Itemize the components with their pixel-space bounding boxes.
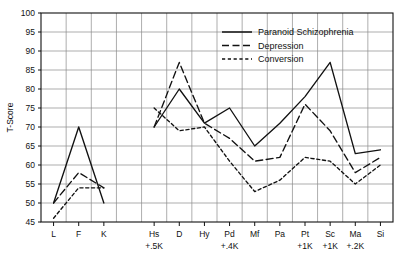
x-tick-label: Hs	[149, 229, 159, 239]
y-tick-label: 70	[26, 122, 36, 132]
legend: Paranoid SchizophreniaDepressionConversi…	[222, 27, 354, 64]
mmpi-profile-chart: 4550556065707580859095100T-ScoreLFKHs+.5…	[0, 0, 401, 266]
y-tick-label: 45	[26, 217, 36, 227]
y-tick-label: 80	[26, 84, 36, 94]
chart-canvas: 4550556065707580859095100T-ScoreLFKHs+.5…	[0, 0, 401, 266]
x-tick-label: Mf	[250, 229, 260, 239]
x-tick-sublabel: +.2K	[346, 241, 364, 251]
x-tick-label: Si	[377, 229, 385, 239]
y-tick-label: 85	[26, 65, 36, 75]
legend-label: Conversion	[258, 54, 304, 64]
x-tick-label: Ma	[349, 229, 361, 239]
x-tick-label: Pd	[224, 229, 235, 239]
x-tick-label: Pa	[275, 229, 286, 239]
series-line-validity	[54, 173, 104, 203]
y-tick-label: 55	[26, 179, 36, 189]
x-tick-sublabel: +1K	[322, 241, 338, 251]
x-tick-label: D	[176, 229, 182, 239]
grid-layer	[41, 13, 393, 222]
y-tick-label: 75	[26, 103, 36, 113]
y-tick-label: 100	[21, 8, 35, 18]
legend-label: Paranoid Schizophrenia	[258, 27, 354, 37]
y-axis-title: T-Score	[5, 102, 15, 132]
legend-label: Depression	[258, 41, 304, 51]
x-tick-label: L	[51, 229, 56, 239]
x-tick-sublabel: +.5K	[145, 241, 163, 251]
y-tick-label: 50	[26, 198, 36, 208]
y-tick-label: 90	[26, 46, 36, 56]
y-tick-label: 65	[26, 141, 36, 151]
x-tick-label: K	[101, 229, 107, 239]
x-tick-label: F	[76, 229, 81, 239]
x-tick-label: Sc	[325, 229, 336, 239]
y-tick-label: 95	[26, 27, 36, 37]
x-tick-sublabel: +1K	[297, 241, 313, 251]
tick-label-layer: 4550556065707580859095100T-ScoreLFKHs+.5…	[5, 8, 384, 251]
x-tick-sublabel: +.4K	[221, 241, 239, 251]
x-tick-label: Pt	[301, 229, 310, 239]
y-tick-label: 60	[26, 160, 36, 170]
x-tick-label: Hy	[199, 229, 210, 239]
